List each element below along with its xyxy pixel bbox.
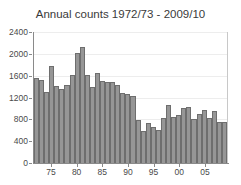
page-title: Annual counts 1972/73 - 2009/10 [0, 8, 241, 20]
x-axis-tick-mark [179, 164, 180, 167]
y-axis-tick-mark [29, 54, 32, 55]
y-axis-tick-label: 1200 [9, 93, 28, 103]
x-axis-tick-label: 05 [200, 167, 209, 177]
y-axis-tick-label: 0 [23, 158, 28, 168]
y-axis-tick-mark [29, 76, 32, 77]
y-axis-tick-mark [29, 141, 32, 142]
x-axis-tick-mark [128, 164, 129, 167]
y-axis-tick-mark [29, 163, 32, 164]
y-axis-tick-label: 1600 [9, 71, 28, 81]
y-axis-tick-mark [29, 98, 32, 99]
x-axis-tick-label: 85 [98, 167, 107, 177]
x-axis-tick-mark [51, 164, 52, 167]
bar [222, 122, 227, 163]
y-axis: 04008001200160020002400 [0, 32, 31, 163]
x-axis-tick-mark [154, 164, 155, 167]
chart-figure: Annual counts 1972/73 - 2009/10 04008001… [0, 0, 241, 185]
x-axis-tick-mark [205, 164, 206, 167]
y-axis-tick-mark [29, 32, 32, 33]
y-axis-tick-label: 2000 [9, 49, 28, 59]
plot-area [33, 32, 228, 163]
x-axis-tick-label: 95 [149, 167, 158, 177]
x-axis-tick-label: 00 [175, 167, 184, 177]
bar-series [34, 32, 227, 163]
y-axis-tick-label: 2400 [9, 27, 28, 37]
x-axis-tick-label: 75 [46, 167, 55, 177]
x-axis-tick-label: 80 [72, 167, 81, 177]
x-axis: 75808590950005 [33, 164, 228, 184]
y-axis-tick-mark [29, 119, 32, 120]
x-axis-tick-label: 90 [123, 167, 132, 177]
x-axis-tick-mark [102, 164, 103, 167]
y-axis-tick-label: 400 [14, 136, 28, 146]
x-axis-tick-mark [77, 164, 78, 167]
y-axis-tick-label: 800 [14, 114, 28, 124]
